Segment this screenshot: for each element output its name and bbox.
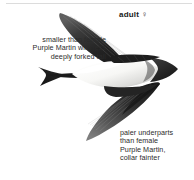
illustration-plate: adult ♀ smaller than female Purple Marti…: [0, 0, 194, 180]
upper-wing-shoulder: [111, 55, 160, 63]
annotation-right: paler underparts than female Purple Mart…: [120, 129, 192, 162]
annotation-left: smaller than female Purple Martin with l…: [14, 36, 106, 61]
age-sex-label: adult ♀: [119, 10, 148, 19]
head-and-collar: [143, 58, 178, 82]
forked-tail: [38, 67, 78, 86]
